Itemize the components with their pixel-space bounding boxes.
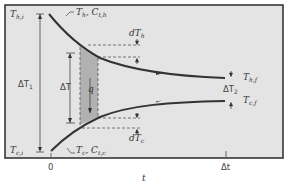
x-axis-label: t (142, 173, 146, 182)
label-q: q (88, 84, 94, 94)
x-end-label: Δt (221, 162, 231, 172)
heat-exchanger-diagram: Th,i Th, Ct,h dTh ΔT1 ΔT q Th,f ΔT2 Tc,f… (0, 0, 285, 182)
label-delta-t: ΔT (60, 82, 72, 92)
x-origin-label: 0 (48, 162, 53, 172)
plot-frame (5, 5, 283, 158)
